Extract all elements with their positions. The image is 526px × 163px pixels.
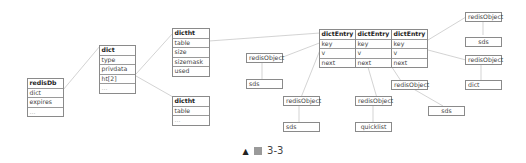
dict-field-more: ... xyxy=(100,84,135,93)
figure-label-glyph-icon xyxy=(254,147,262,155)
dictht-1-field-table: table xyxy=(173,107,209,117)
dict-struct: dict type privdata ht[2] ... xyxy=(99,45,136,94)
dictht-0-field-size: size xyxy=(173,48,209,58)
dictentry-0-title: dictEntry xyxy=(320,30,355,40)
dictentry-2-key: key xyxy=(392,40,427,50)
dictentry-1-next: next xyxy=(356,59,391,68)
dict-title: dict xyxy=(100,46,135,56)
dictht-1-field-more: ... xyxy=(173,116,209,125)
dictentry-0-v: v xyxy=(320,49,355,59)
redisobject-node-b: redisObject xyxy=(283,96,320,106)
redisobject-node-d: redisObject xyxy=(391,80,428,90)
redisobject-node-e: redisObject xyxy=(465,12,502,22)
dictht-1-struct: dictht table ... xyxy=(172,96,210,126)
dictentry-2-next: next xyxy=(392,59,427,68)
dictentry-1: dictEntry key v next xyxy=(355,29,392,68)
dictentry-0-key: key xyxy=(320,40,355,50)
figure-caption: ▲ 3-3 xyxy=(0,145,526,156)
redisdb-field-expires: expires xyxy=(28,98,63,108)
sds-node-d: sds xyxy=(465,37,502,47)
dict-field-privdata: privdata xyxy=(100,65,135,75)
redisdb-field-dict: dict xyxy=(28,89,63,99)
redisdb-field-more: ... xyxy=(28,108,63,117)
redisdb-struct: redisDb dict expires ... xyxy=(27,78,64,117)
dictht-0-field-sizemask: sizemask xyxy=(173,58,209,68)
triangle-marker-icon: ▲ xyxy=(243,147,249,156)
dictht-0-field-table: table xyxy=(173,39,209,49)
quicklist-node: quicklist xyxy=(355,122,392,132)
dictht-0-title: dictht xyxy=(173,29,209,39)
dictht-0-field-used: used xyxy=(173,67,209,76)
dictentry-2-v: v xyxy=(392,49,427,59)
dictentry-0: dictEntry key v next xyxy=(319,29,356,68)
sds-node-b: sds xyxy=(283,122,320,132)
dict-field-ht: ht[2] xyxy=(100,75,135,85)
sds-node-c: sds xyxy=(428,106,465,116)
sds-node-a: sds xyxy=(246,79,283,89)
dictentry-1-v: v xyxy=(356,49,391,59)
dictht-1-title: dictht xyxy=(173,97,209,107)
dictentry-1-title: dictEntry xyxy=(356,30,391,40)
dictentry-2-title: dictEntry xyxy=(392,30,427,40)
dictht-0-struct: dictht table size sizemask used xyxy=(172,28,210,77)
dict-leaf-node: dict xyxy=(465,80,502,90)
figure-number: 3-3 xyxy=(267,145,283,156)
redisobject-node-f: redisObject xyxy=(465,55,502,65)
dictentry-0-next: next xyxy=(320,59,355,68)
redisobject-node-a: redisObject xyxy=(246,53,283,63)
dictentry-2: dictEntry key v next xyxy=(391,29,428,68)
dictentry-1-key: key xyxy=(356,40,391,50)
dict-field-type: type xyxy=(100,56,135,66)
redisdb-title: redisDb xyxy=(28,79,63,89)
redisobject-node-c: redisObject xyxy=(355,96,392,106)
